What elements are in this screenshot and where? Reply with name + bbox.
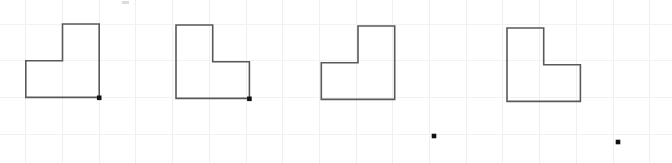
dot-shape-2-corner [247,97,252,102]
dot-shape-1-corner [97,96,102,101]
shapes-figure [0,0,672,163]
figure-canvas [0,0,672,163]
dot-free-1 [432,134,437,139]
stray-marks [122,1,129,4]
dot-free-2 [616,140,621,145]
top-edge-artifact [122,1,129,4]
